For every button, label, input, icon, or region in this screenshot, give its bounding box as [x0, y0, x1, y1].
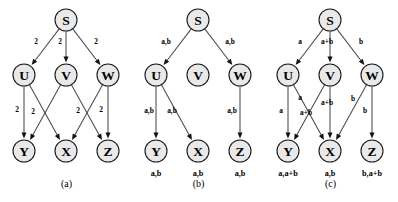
edge-S-to-U [164, 29, 191, 65]
node-w[interactable]: W [361, 64, 383, 86]
node-label: Z [103, 144, 112, 159]
arrowhead-icon [95, 59, 101, 65]
edge-label: a+b [321, 98, 333, 107]
arrowhead-icon [238, 133, 243, 139]
panel-a-graph: 2222222SUVWYXZ [0, 0, 133, 180]
multicast-network-coding-figure: 2222222SUVWYXZ (a) a,ba,ba,ba,ba,bSUVWYX… [0, 0, 398, 202]
edge-W-to-Z [238, 87, 243, 139]
node-label: X [325, 144, 335, 159]
node-label: Y [151, 144, 161, 159]
node-label: V [193, 68, 203, 83]
edge-label: a [298, 93, 302, 102]
node-u[interactable]: U [145, 64, 167, 86]
edge-label: 2 [15, 105, 19, 114]
node-label: U [19, 68, 29, 83]
edge-U-to-Y [22, 87, 27, 139]
node-s[interactable]: S [319, 9, 341, 31]
edge-W-to-Z [106, 87, 111, 139]
edge-label: a+b [321, 37, 333, 46]
node-u[interactable]: U [277, 64, 299, 86]
sink-label: a,b [151, 169, 162, 178]
node-label: X [193, 144, 203, 159]
node-label: U [283, 68, 293, 83]
arrowhead-icon [328, 133, 333, 139]
node-label: U [151, 68, 161, 83]
node-label: Y [283, 144, 293, 159]
edge-label: a+b [300, 108, 312, 117]
edge-label: b [351, 94, 355, 103]
edge-label: 2 [94, 37, 98, 46]
panel-a-caption: (a) [0, 178, 133, 189]
node-label: X [61, 144, 71, 159]
arrowhead-icon [359, 59, 365, 65]
panel-a: 2222222SUVWYXZ (a) [0, 0, 133, 202]
edge-label: b [363, 106, 367, 115]
edge-label: b [359, 37, 363, 46]
node-w[interactable]: W [229, 64, 251, 86]
node-y[interactable]: Y [145, 140, 167, 162]
node-label: S [194, 13, 202, 28]
edge-label: 2 [34, 37, 38, 46]
edge-label: 2 [99, 105, 103, 114]
node-x[interactable]: X [187, 140, 209, 162]
edge-label: 2 [76, 106, 80, 115]
edge-label: a,b [144, 106, 154, 115]
edge-S-to-U [296, 29, 323, 65]
panel-c-graph: aa+bbaaa+ba+bbbSUVWYXZa,a+ba,bb,a+b [264, 0, 397, 180]
node-v[interactable]: V [55, 64, 77, 86]
arrowhead-icon [164, 59, 170, 65]
panel-c: aa+bbaaa+ba+bbbSUVWYXZa,a+ba,bb,a+b (c) [264, 0, 397, 202]
edge-label: a,b [227, 106, 237, 115]
edge-label: a [279, 106, 283, 115]
node-label: V [61, 68, 71, 83]
node-y[interactable]: Y [13, 140, 35, 162]
node-label: W [101, 68, 115, 83]
node-label: Z [367, 144, 376, 159]
node-label: Z [235, 144, 244, 159]
node-w[interactable]: W [97, 64, 119, 86]
node-label: S [62, 13, 70, 28]
edge-label: a,b [167, 106, 177, 115]
sink-label: b,a+b [362, 169, 382, 178]
node-s[interactable]: S [55, 9, 77, 31]
arrowhead-icon [370, 133, 375, 139]
arrowhead-icon [328, 57, 333, 63]
arrowhead-icon [32, 59, 38, 65]
node-v[interactable]: V [187, 64, 209, 86]
node-u[interactable]: U [13, 64, 35, 86]
arrowhead-icon [154, 133, 159, 139]
node-z[interactable]: Z [361, 140, 383, 162]
node-x[interactable]: X [55, 140, 77, 162]
node-label: S [326, 13, 334, 28]
edge-V-to-X [328, 87, 333, 139]
arrowhead-icon [106, 133, 111, 139]
node-label: V [325, 68, 335, 83]
node-z[interactable]: Z [97, 140, 119, 162]
node-z[interactable]: Z [229, 140, 251, 162]
edge-label: 2 [58, 37, 62, 46]
panel-c-caption: (c) [264, 178, 397, 189]
arrowhead-icon [286, 133, 291, 139]
edge-S-to-U [32, 29, 59, 65]
edge-U-to-Y [286, 87, 291, 139]
panel-b-caption: (b) [132, 178, 265, 189]
sink-label: a,a+b [278, 169, 298, 178]
arrowhead-icon [22, 133, 27, 139]
node-x[interactable]: X [319, 140, 341, 162]
sink-label: a,b [325, 169, 336, 178]
edge-label: 2 [31, 107, 35, 116]
node-s[interactable]: S [187, 9, 209, 31]
edge-label: a,b [161, 37, 171, 46]
edge-W-to-Z [370, 87, 375, 139]
node-v[interactable]: V [319, 64, 341, 86]
edge-S-to-W [337, 29, 364, 65]
node-y[interactable]: Y [277, 140, 299, 162]
edge-S-to-W [205, 29, 232, 65]
edge-S-to-W [73, 29, 100, 65]
arrowhead-icon [227, 59, 233, 65]
node-label: W [233, 68, 247, 83]
sink-label: a,b [193, 169, 204, 178]
edge-U-to-Y [154, 87, 159, 139]
edge-label: a [298, 37, 302, 46]
edge-S-to-V [64, 32, 69, 63]
